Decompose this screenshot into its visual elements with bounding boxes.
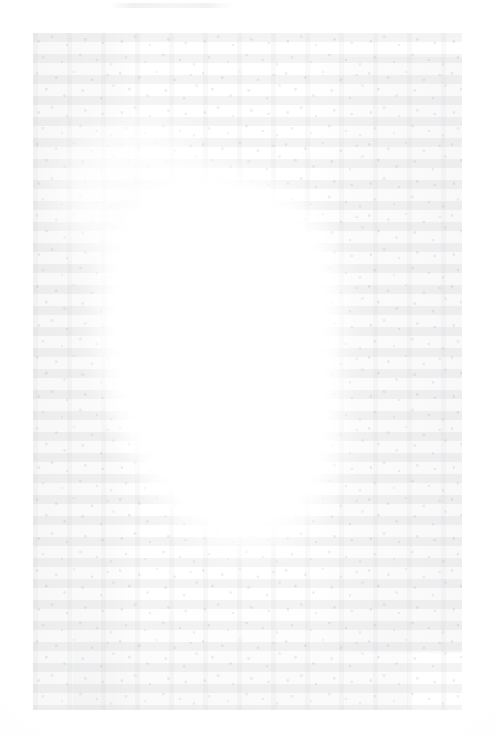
document-page: No characters are legible at any magnifi… [0,0,497,742]
bottom-band-residue [73,590,408,710]
running-header-residue [110,3,232,8]
